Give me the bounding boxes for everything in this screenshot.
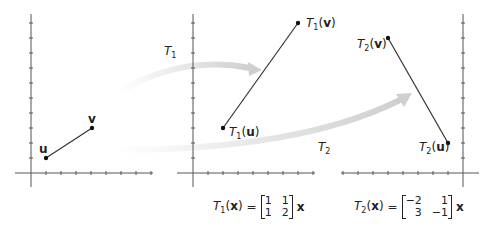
segment-uv — [44, 126, 94, 160]
linear-transformation-diagram: T1 T2 u v T1(u) T1(v) T2(u) T2(v) T1(x) … — [0, 0, 490, 226]
u-label: u — [39, 142, 48, 156]
matrix-t1: 11 12 — [261, 195, 293, 219]
arrow-t2-label: T2 — [318, 140, 330, 156]
t2u-label: T2(u) — [419, 140, 449, 156]
t1v-label: T1(v) — [306, 16, 336, 32]
diagram-canvas — [0, 0, 490, 226]
t2v-label: T2(v) — [357, 37, 387, 53]
plot1-axes — [15, 14, 153, 187]
arrow-t1 — [120, 62, 262, 92]
t1u-label: T1(u) — [229, 125, 259, 141]
arrow-t2 — [115, 93, 412, 150]
equation-t2: T2(x) = −21 3−1 x — [354, 195, 464, 219]
plot2-axes — [177, 14, 315, 187]
matrix-t2: −21 3−1 — [402, 195, 452, 219]
equation-t1: T1(x) = 11 12 x — [213, 195, 304, 219]
arrow-t1-label: T1 — [164, 44, 176, 60]
v-label: v — [88, 112, 96, 126]
segment-t2 — [386, 36, 450, 145]
segment-t1 — [221, 21, 300, 130]
